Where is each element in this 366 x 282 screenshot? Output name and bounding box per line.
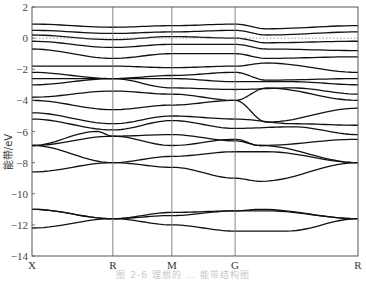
y-tick-label: −12 [11, 219, 28, 231]
y-tick-label: 0 [23, 32, 29, 44]
y-tick-label: −14 [11, 250, 29, 262]
y-tick-label: −4 [16, 94, 28, 106]
band-line [32, 24, 358, 29]
y-tick-label: 2 [23, 1, 29, 13]
y-tick-label: −10 [11, 188, 29, 200]
band-line [32, 152, 358, 172]
band-line [32, 219, 358, 231]
band-line [32, 79, 358, 95]
y-tick-label: −2 [16, 63, 28, 75]
band-lines [32, 24, 358, 231]
band-line [32, 35, 358, 43]
band-line [32, 100, 358, 122]
band-line [32, 146, 358, 182]
y-axis-ticks: 20−2−4−6−8−10−12−14 [11, 1, 35, 262]
y-tick-label: −8 [16, 157, 28, 169]
band-line [32, 63, 358, 72]
band-line [32, 49, 358, 58]
band-line [32, 136, 358, 162]
y-axis-label: 能带/eV [2, 134, 14, 171]
band-structure-chart: 20−2−4−6−8−10−12−14 XRMGR 能带/eV [0, 0, 366, 282]
y-tick-label: −6 [16, 126, 28, 138]
figure-caption: 图 2-6 理想的 … 能带结构图 [0, 268, 366, 281]
band-line [32, 119, 358, 135]
band-line [32, 88, 358, 100]
band-line [32, 30, 358, 35]
